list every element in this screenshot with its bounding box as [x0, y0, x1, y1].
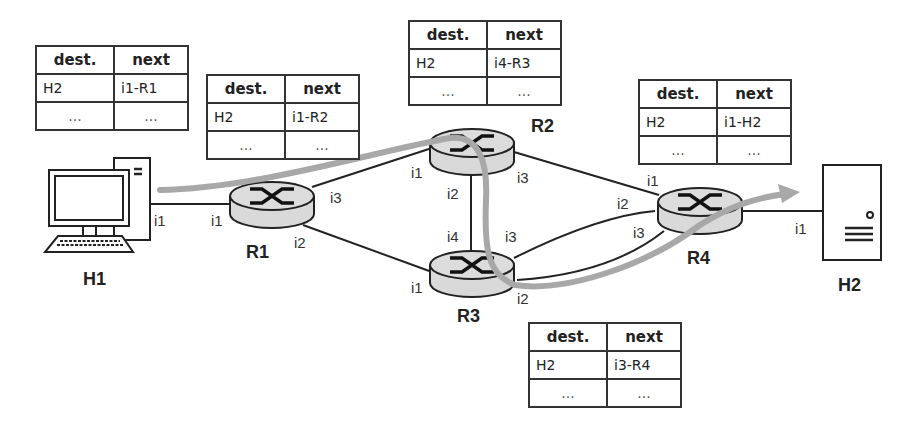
table-header-next: next: [607, 323, 681, 351]
table-header-next: next: [717, 80, 791, 108]
r2-i3-label: i3: [517, 169, 529, 186]
arrowhead-icon: [778, 184, 800, 203]
link-r1-r3: [303, 225, 432, 272]
h2-server-icon: [823, 165, 881, 260]
table-cell: ...: [717, 136, 791, 164]
routing-table-r1: dest.next H2i1-R2 ......: [206, 74, 360, 160]
table-cell: i3-R4: [607, 351, 681, 379]
h1-computer-icon: [45, 158, 150, 252]
r4-i2-label: i2: [617, 195, 629, 212]
r1-i2-label: i2: [294, 234, 306, 251]
r3-label: R3: [457, 306, 480, 326]
table-cell: ...: [285, 131, 359, 159]
r1-label: R1: [246, 242, 269, 262]
h1-i1-label: i1: [154, 212, 166, 229]
table-header-next: next: [114, 46, 188, 74]
r3-i4-label: i4: [447, 228, 459, 245]
table-cell: H2: [409, 49, 487, 77]
h1-label: H1: [83, 269, 106, 289]
table-cell: ...: [207, 131, 285, 159]
table-header-dest: dest.: [36, 46, 114, 74]
r2-i2-label: i2: [447, 185, 459, 202]
r4-label: R4: [687, 248, 710, 268]
routing-table-r2: dest.next H2i4-R3 ......: [408, 20, 562, 106]
r4-i3-label: i3: [633, 224, 645, 241]
table-header-dest: dest.: [207, 75, 285, 103]
table-cell: i4-R3: [487, 49, 561, 77]
r2-i1-label: i1: [411, 164, 423, 181]
table-cell: ...: [114, 102, 188, 130]
table-cell: ...: [409, 77, 487, 105]
table-header-next: next: [487, 21, 561, 49]
routing-table-r3: dest.next H2i3-R4 ......: [528, 322, 682, 408]
table-cell: H2: [207, 103, 285, 131]
table-cell: H2: [529, 351, 607, 379]
h2-label: H2: [838, 275, 861, 295]
r4-i1-label: i1: [647, 172, 659, 189]
table-cell: ...: [607, 379, 681, 407]
router-r2-icon: [430, 129, 514, 175]
r3-i1-label: i1: [411, 279, 423, 296]
table-cell: ...: [36, 102, 114, 130]
table-cell: i1-H2: [717, 108, 791, 136]
routing-table-h1: dest.next H2i1-R1 ......: [35, 45, 189, 131]
r2-label: R2: [531, 116, 554, 136]
table-header-dest: dest.: [409, 21, 487, 49]
r3-i2-label: i2: [517, 290, 529, 307]
table-cell: ...: [639, 136, 717, 164]
r3-i3-label: i3: [505, 228, 517, 245]
table-header-next: next: [285, 75, 359, 103]
routing-table-r4: dest.next H2i1-H2 ......: [638, 79, 792, 165]
r1-i3-label: i3: [330, 189, 342, 206]
table-cell: H2: [639, 108, 717, 136]
h2-i1-label: i1: [795, 220, 807, 237]
r1-i1-label: i1: [211, 212, 223, 229]
table-cell: ...: [529, 379, 607, 407]
router-r1-icon: [230, 182, 314, 228]
table-header-dest: dest.: [529, 323, 607, 351]
table-header-dest: dest.: [639, 80, 717, 108]
table-cell: H2: [36, 74, 114, 102]
table-cell: i1-R1: [114, 74, 188, 102]
table-cell: i1-R2: [285, 103, 359, 131]
table-cell: ...: [487, 77, 561, 105]
